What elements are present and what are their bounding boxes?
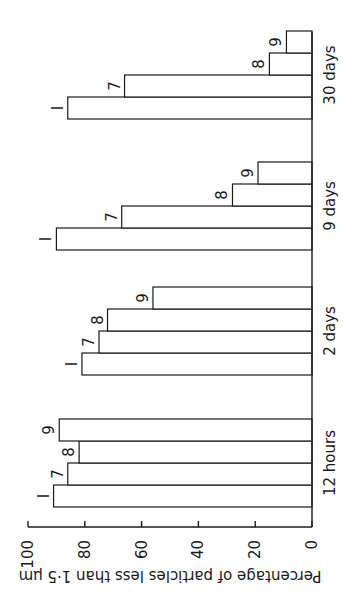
bar-label: 7 <box>80 337 98 347</box>
bar-12-hours-I <box>54 485 312 507</box>
bar-30-days-I <box>68 97 312 119</box>
bar-label: 7 <box>103 212 121 222</box>
bar-30-days-9 <box>286 31 312 53</box>
bar-30-days-7 <box>125 75 312 97</box>
bar-label: 9 <box>134 293 152 303</box>
tick-label: 0 <box>303 540 321 550</box>
bar-label: 9 <box>267 37 285 47</box>
bar-12-hours-9 <box>59 419 312 441</box>
bars-layer: I789I789I789I789 <box>35 31 312 507</box>
bar-label: I <box>37 237 55 241</box>
bar-label: 8 <box>89 315 107 325</box>
bar-label: 9 <box>239 168 257 178</box>
category-label: 30 days <box>321 45 339 104</box>
bar-label: I <box>63 362 81 366</box>
bar-label: 7 <box>106 81 124 91</box>
bar-label: 9 <box>40 425 58 435</box>
bar-label: 7 <box>49 469 67 479</box>
bar-label: 8 <box>213 190 231 200</box>
bar-2-days-9 <box>153 287 312 309</box>
bar-chart: I789I789I789I789 12 hours2 days9 days30 … <box>0 0 344 601</box>
bar-9-days-8 <box>232 184 312 206</box>
bar-9-days-9 <box>258 162 312 184</box>
bar-12-hours-7 <box>68 463 312 485</box>
bar-9-days-I <box>56 228 312 250</box>
tick-label: 100 <box>19 540 37 569</box>
category-label: 9 days <box>321 181 339 231</box>
bar-2-days-7 <box>99 331 312 353</box>
bar-12-hours-8 <box>79 441 312 463</box>
tick-label: 80 <box>76 540 94 559</box>
bar-label: 8 <box>250 59 268 69</box>
bar-2-days-8 <box>108 309 312 331</box>
bar-label: I <box>35 494 53 498</box>
category-label: 12 hours <box>321 430 339 496</box>
bar-9-days-7 <box>122 206 312 228</box>
bar-label: I <box>49 106 67 110</box>
category-label: 2 days <box>321 306 339 356</box>
tick-label: 60 <box>133 540 151 559</box>
tick-label: 40 <box>189 540 207 559</box>
bar-label: 8 <box>60 447 78 457</box>
value-axis-title: Percentage of particles less than 1·5 μm <box>19 567 322 585</box>
bar-2-days-I <box>82 353 312 375</box>
tick-label: 20 <box>246 540 264 559</box>
bar-30-days-8 <box>269 53 312 75</box>
